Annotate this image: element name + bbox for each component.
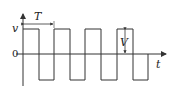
square-wave-diagram: T v 0 V t	[0, 0, 173, 87]
x-axis-label: t	[156, 58, 161, 71]
origin-label: 0	[12, 48, 18, 59]
period-label: T	[34, 10, 43, 23]
y-axis-label: v	[12, 22, 19, 35]
amplitude-label: V	[120, 36, 129, 49]
